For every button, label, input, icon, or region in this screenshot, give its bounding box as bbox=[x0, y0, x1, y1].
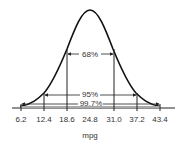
interval-997-label: 99.7% bbox=[80, 99, 103, 108]
tick-label: 37.2 bbox=[129, 115, 145, 124]
normal-curve-chart: 68% 95% 99.7% 6.2 12.4 18.6 24.8 31.0 37… bbox=[0, 0, 177, 146]
tick-label: 18.6 bbox=[59, 115, 75, 124]
interval-68-label: 68% bbox=[82, 50, 98, 59]
tick-label: 6.2 bbox=[15, 115, 27, 124]
tick-label: 43.4 bbox=[152, 115, 168, 124]
tick-label: 12.4 bbox=[36, 115, 52, 124]
tick-label: 24.8 bbox=[82, 115, 98, 124]
x-axis-label: mpg bbox=[82, 131, 98, 140]
tick-label: 31.0 bbox=[106, 115, 122, 124]
interval-95-label: 95% bbox=[82, 90, 98, 99]
